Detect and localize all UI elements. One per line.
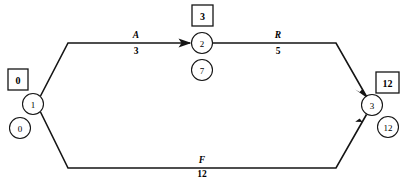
- activity-a-line: [41, 43, 191, 96]
- event-node-3[interactable]: 3: [362, 95, 383, 116]
- earliest-time-badge-node-1[interactable]: 0: [8, 69, 28, 90]
- activity-r-line: [213, 43, 367, 97]
- activity-f-name: F: [198, 155, 206, 165]
- latest-time-badge-node-2-value: 7: [200, 66, 205, 76]
- earliest-time-badge-node-3[interactable]: 12: [376, 72, 399, 93]
- event-node-2-label: 2: [200, 39, 205, 49]
- earliest-time-badge-node-2-value: 3: [200, 11, 205, 22]
- latest-time-badge-node-1[interactable]: 0: [10, 118, 31, 139]
- activity-a-duration: 3: [134, 46, 139, 56]
- event-node-3-label: 3: [370, 101, 375, 111]
- latest-time-badge-node-3-value: 12: [384, 123, 393, 133]
- event-node-1-label: 1: [31, 100, 36, 110]
- activity-a-name: A: [132, 30, 139, 40]
- latest-time-badge-node-3[interactable]: 12: [378, 117, 399, 138]
- event-node-2[interactable]: 2: [192, 33, 213, 54]
- event-node-1[interactable]: 1: [23, 94, 44, 115]
- network-diagram-canvas: 1 2 3 0 3 12 0 7: [0, 0, 403, 192]
- activity-f-duration: 12: [197, 169, 207, 179]
- earliest-time-badge-node-1-value: 0: [16, 75, 21, 86]
- activity-r-name: R: [274, 30, 281, 40]
- network-diagram: 1 2 3 0 3 12 0 7: [0, 0, 403, 192]
- activity-path-r: [213, 43, 368, 98]
- earliest-time-badge-node-2[interactable]: 3: [192, 5, 213, 26]
- activity-r-duration: 5: [276, 46, 281, 56]
- latest-time-badge-node-1-value: 0: [18, 124, 23, 134]
- activity-path-a: [41, 39, 192, 96]
- latest-time-badge-node-2[interactable]: 7: [192, 60, 213, 81]
- earliest-time-badge-node-3-value: 12: [383, 78, 393, 89]
